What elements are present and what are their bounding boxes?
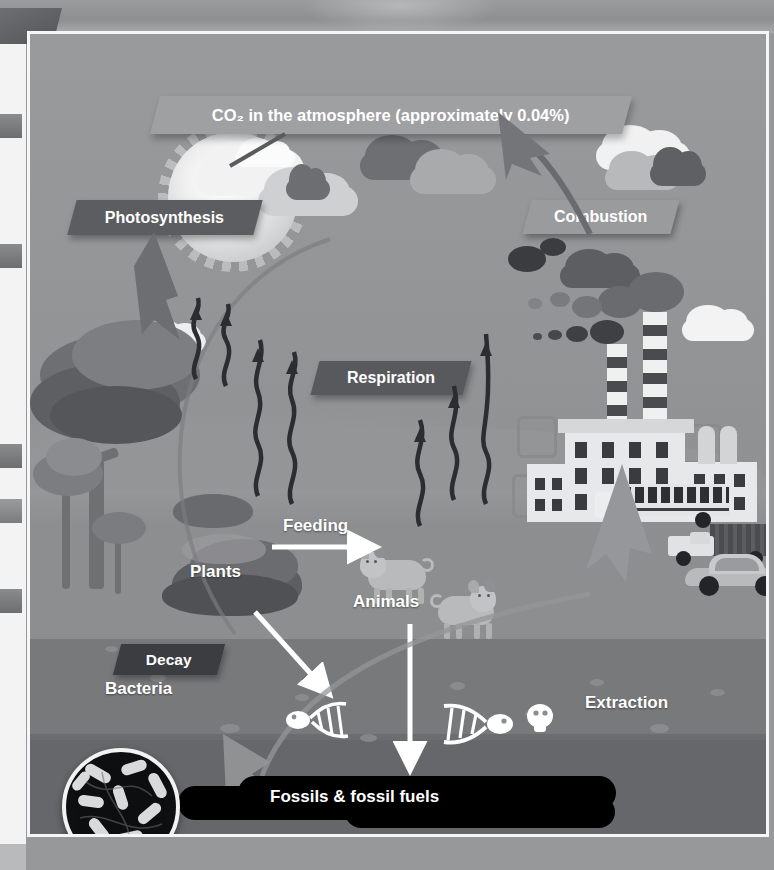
feeding-label: Feeding [283, 516, 348, 536]
animals-label: Animals [353, 592, 419, 612]
thumbnail-chip[interactable] [0, 499, 22, 523]
extraction-label: Extraction [585, 693, 668, 713]
fish-bone-icon [444, 706, 513, 743]
thumbnail-chip[interactable] [0, 589, 22, 613]
fossil-remains [30, 34, 766, 834]
rail-bottom-edge [0, 844, 26, 870]
carbon-cycle-diagram: CO₂ in the atmosphere (approximately 0.0… [30, 34, 766, 834]
bacteria-microscope-view [62, 748, 180, 834]
skull-icon [527, 704, 553, 732]
thumbnail-chip[interactable] [0, 244, 22, 268]
slide-photo-root: CO₂ in the atmosphere (approximately 0.0… [0, 0, 774, 870]
thumbnail-rail[interactable] [0, 44, 26, 844]
plants-label: Plants [190, 562, 241, 582]
fish-bone-icon [286, 704, 348, 737]
thumbnail-chip[interactable] [0, 444, 22, 468]
background-wall [0, 0, 774, 33]
slide-frame: CO₂ in the atmosphere (approximately 0.0… [27, 31, 769, 837]
thumbnail-chip[interactable] [0, 114, 22, 138]
bacteria-label: Bacteria [105, 679, 172, 699]
